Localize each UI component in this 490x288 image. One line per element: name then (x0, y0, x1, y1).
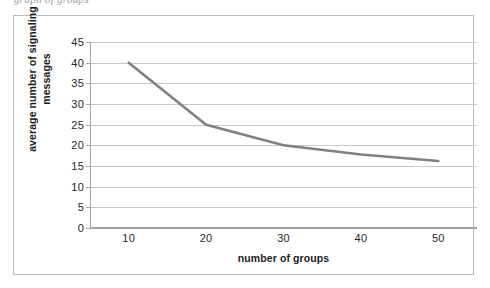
y-axis-tick-label: 15 (71, 160, 84, 172)
y-axis-title-line-2: messages (39, 53, 53, 105)
gridline (90, 228, 477, 229)
chart-page: graph of groups average number of signal… (0, 0, 490, 288)
x-axis-tick-label: 30 (277, 232, 290, 244)
x-axis-title: number of groups (90, 252, 477, 264)
x-axis-tick-label: 40 (355, 232, 368, 244)
series-line-average-signaling-messages (129, 63, 439, 161)
y-axis-tick-label: 40 (71, 57, 84, 69)
y-axis-tick-label: 25 (71, 119, 84, 131)
y-axis-tick-label: 5 (78, 201, 84, 213)
y-axis-tick-labels: 051015202530354045 (56, 42, 84, 228)
y-axis-tick-label: 0 (78, 222, 84, 234)
y-axis-tick-label: 30 (71, 98, 84, 110)
x-axis-tick-label: 50 (432, 232, 445, 244)
y-axis-title-line-1: average number of signaling (25, 6, 39, 152)
y-axis-tick-label: 10 (71, 181, 84, 193)
plot-area (90, 42, 477, 228)
y-axis-tick-label: 35 (71, 77, 84, 89)
x-axis-tick-labels: 1020304050 (90, 232, 477, 248)
y-axis-title: average number of signaling messages (22, 0, 56, 168)
x-axis-tick-label: 20 (200, 232, 213, 244)
y-axis-tick-label: 45 (71, 36, 84, 48)
x-axis-tick-label: 10 (122, 232, 135, 244)
series-plot (90, 42, 477, 228)
y-axis-tick-label: 20 (71, 139, 84, 151)
chart-frame: average number of signaling messages 051… (13, 15, 474, 275)
